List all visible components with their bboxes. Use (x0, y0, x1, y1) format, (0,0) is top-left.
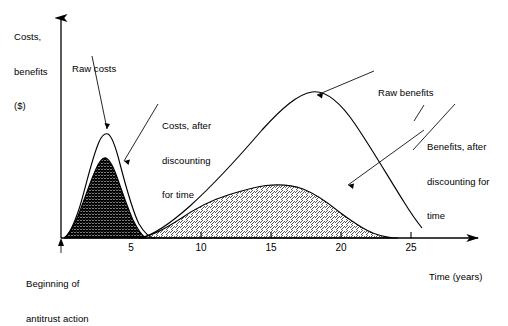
x-tick-label-15: 15 (261, 242, 281, 253)
discounted-benefits-line2: discounting for (427, 176, 490, 188)
x-tick-label-20: 20 (331, 242, 351, 253)
x-tick-label-25: 25 (401, 242, 421, 253)
discounted-costs-annotation: Costs, after discounting for time (162, 97, 211, 224)
origin-marker (58, 238, 64, 253)
origin-annotation-line2: antitrust action (26, 313, 89, 325)
discounted-benefits-line1: Benefits, after (427, 141, 490, 153)
discounted-costs-line2: discounting (162, 155, 211, 167)
x-axis-label-text: Time (years) (429, 271, 483, 283)
y-axis-label: Costs, benefits ($) (14, 8, 48, 135)
discounted-benefits-annotation: Benefits, after discounting for time (427, 118, 490, 245)
x-axis-label: Time (years) (429, 248, 483, 306)
discounted-costs-line3: for time (162, 189, 211, 201)
origin-annotation: Beginning of antitrust action (26, 255, 89, 326)
x-tick-label-5: 5 (121, 242, 141, 253)
area-discounted-costs (64, 158, 146, 238)
y-axis-label-line3: ($) (14, 100, 48, 112)
x-tick-label-10: 10 (191, 242, 211, 253)
origin-annotation-line1: Beginning of (26, 278, 89, 290)
raw-benefits-annotation: Raw benefits (378, 64, 434, 122)
raw-benefits-annotation-text: Raw benefits (378, 87, 434, 99)
y-axis-label-line2: benefits (14, 66, 48, 78)
discounted-benefits-line3: time (427, 210, 490, 222)
discounted-costs-line1: Costs, after (162, 120, 211, 132)
raw-costs-annotation: Raw costs (72, 40, 116, 98)
raw-costs-annotation-text: Raw costs (72, 63, 116, 75)
y-axis-label-line1: Costs, (14, 31, 48, 43)
